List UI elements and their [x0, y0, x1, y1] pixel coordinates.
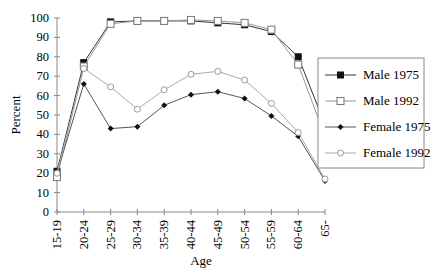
x-axis: 15-1920-2425-2930-3435-3940-4445-4950-54…: [50, 209, 332, 249]
data-point: [215, 68, 221, 74]
x-axis-title: Age: [190, 253, 212, 268]
data-point: [188, 16, 195, 23]
data-point: [295, 61, 302, 68]
y-tick-label: 40: [37, 127, 50, 141]
legend-marker: [338, 150, 344, 156]
data-point: [188, 92, 194, 98]
legend-label: Male 1992: [363, 93, 419, 108]
x-tick-label: 60-64: [291, 219, 305, 249]
data-point: [322, 176, 328, 182]
y-tick-label: 70: [37, 69, 50, 83]
line-chart: 0102030405060708090100 15-1920-2425-2930…: [0, 0, 441, 278]
x-tick-label: 55-59: [264, 220, 278, 249]
data-point: [161, 87, 167, 93]
y-axis-title: Percent: [8, 95, 23, 134]
y-tick-label: 0: [43, 205, 49, 219]
data-point: [295, 54, 301, 60]
y-tick-label: 10: [37, 186, 50, 200]
legend-marker: [337, 98, 344, 105]
data-point: [161, 17, 168, 24]
y-axis: 0102030405060708090100: [30, 11, 60, 219]
series-line: [57, 68, 325, 179]
legend: Male 1975Male 1992Female 1975Female 1992: [318, 58, 431, 168]
data-point: [214, 17, 221, 24]
legend-label: Male 1975: [363, 67, 419, 82]
data-point: [134, 106, 140, 112]
x-tick-label: 35-39: [157, 220, 171, 249]
x-tick-label: 50-54: [238, 219, 252, 249]
y-tick-label: 80: [37, 50, 50, 64]
y-tick-label: 100: [30, 11, 49, 25]
y-tick-label: 30: [37, 147, 50, 161]
x-tick-label: 65-: [318, 220, 332, 237]
data-point: [242, 96, 248, 102]
data-point: [268, 100, 274, 106]
x-tick-label: 15-19: [50, 220, 64, 249]
data-point: [241, 19, 248, 26]
y-tick-label: 60: [37, 89, 50, 103]
data-point: [215, 89, 221, 95]
x-tick-label: 25-29: [104, 220, 118, 249]
data-point: [81, 81, 87, 87]
series-male-1992: [54, 16, 329, 180]
data-point: [54, 170, 60, 176]
series-line: [57, 84, 325, 181]
x-tick-label: 45-49: [211, 220, 225, 249]
y-tick-label: 90: [37, 30, 50, 44]
y-tick-label: 50: [37, 108, 50, 122]
series-female-1992: [54, 65, 328, 182]
legend-label: Female 1975: [363, 119, 431, 134]
legend-marker: [338, 72, 344, 78]
y-tick-label: 20: [37, 166, 50, 180]
series-layer: [54, 16, 329, 184]
data-point: [268, 26, 275, 33]
data-point: [188, 71, 194, 77]
x-tick-label: 30-34: [130, 219, 144, 249]
data-point: [108, 84, 114, 90]
x-tick-label: 40-44: [184, 219, 198, 249]
series-female-1975: [54, 81, 328, 184]
x-tick-label: 20-24: [77, 219, 91, 249]
data-point: [108, 126, 114, 132]
data-point: [242, 77, 248, 83]
data-point: [295, 129, 301, 135]
data-point: [134, 17, 141, 24]
legend-label: Female 1992: [363, 145, 431, 160]
data-point: [81, 65, 87, 71]
data-point: [107, 20, 114, 27]
